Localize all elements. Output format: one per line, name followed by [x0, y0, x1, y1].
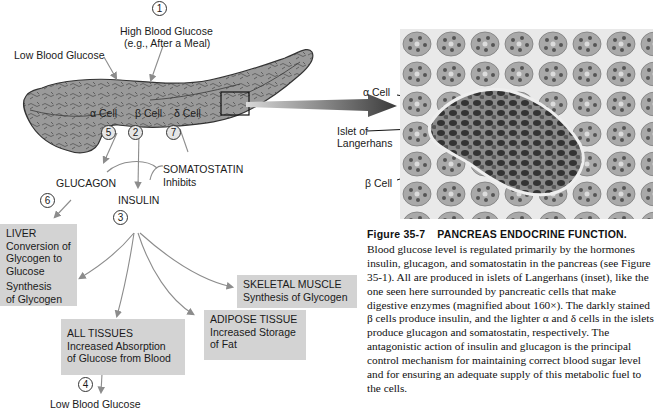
- step-6-badge: 6: [40, 193, 55, 208]
- liver-line1: Conversion of: [6, 240, 71, 253]
- adipose-line1: Increased Storage: [210, 326, 300, 339]
- inhibits-label: Inhibits: [163, 176, 196, 188]
- glucagon-label: GLUCAGON: [56, 177, 116, 189]
- high-glucose-label: High Blood Glucose: [120, 25, 213, 37]
- step-2-badge: 2: [128, 125, 143, 140]
- skeletal-muscle-line1: Synthesis of Glycogen: [243, 291, 351, 304]
- beta-cell-organ-label: β Cell: [135, 107, 162, 119]
- micrograph-alpha-cell-label: α Cell: [363, 86, 390, 98]
- liver-box: LIVER Conversion of Glycogen to Glucose …: [0, 224, 77, 306]
- insulin-label: INSULIN: [118, 194, 159, 206]
- islet-micrograph: [400, 29, 653, 219]
- alpha-cell-organ-label: α Cell: [90, 107, 117, 119]
- micrograph-beta-cell-label: β Cell: [365, 177, 392, 189]
- skeletal-muscle-box: SKELETAL MUSCLE Synthesis of Glycogen: [237, 275, 357, 308]
- figure-title: PANCREAS ENDOCRINE FUNCTION.: [437, 228, 627, 240]
- micrograph-islet-label-2: Langerhans: [337, 137, 392, 149]
- caption-body: Blood glucose level is regulated primari…: [367, 243, 654, 394]
- skeletal-muscle-title: SKELETAL MUSCLE: [243, 278, 351, 291]
- somatostatin-label: SOMATOSTATIN: [163, 163, 243, 175]
- low-glucose-bottom-label: Low Blood Glucose: [50, 398, 140, 410]
- adipose-tissue-box: ADIPOSE TISSUE Increased Storage of Fat: [204, 310, 306, 360]
- step-5-badge: 5: [101, 125, 116, 140]
- liver-title: LIVER: [6, 227, 71, 240]
- high-glucose-example: (e.g., After a Meal): [124, 37, 210, 49]
- figure-number: Figure 35-7: [367, 228, 425, 240]
- delta-cell-organ-label: δ Cell: [174, 107, 201, 119]
- all-tissues-line1: Increased Absorption: [67, 340, 179, 353]
- micrograph-islet-label-1: Islet of: [337, 125, 368, 137]
- all-tissues-line2: of Glucose from Blood: [67, 352, 179, 365]
- low-glucose-top-label: Low Blood Glucose: [14, 49, 104, 61]
- step-7-badge: 7: [166, 125, 181, 140]
- liver-line5: of Glycogen: [6, 293, 71, 306]
- liver-line3: Glucose: [6, 265, 71, 278]
- figure-caption: Figure 35-7PANCREAS ENDOCRINE FUNCTION. …: [367, 228, 656, 396]
- liver-line4: Synthesis: [6, 280, 71, 293]
- adipose-line2: of Fat: [210, 338, 300, 351]
- step-4-badge: 4: [78, 377, 93, 392]
- step-1-badge: 1: [152, 1, 167, 16]
- all-tissues-box: ALL TISSUES Increased Absorption of Gluc…: [61, 319, 185, 375]
- adipose-title: ADIPOSE TISSUE: [210, 313, 300, 326]
- caption-heading: Figure 35-7PANCREAS ENDOCRINE FUNCTION.: [367, 228, 656, 242]
- micrograph-texture: [400, 29, 653, 219]
- step-3-badge: 3: [113, 210, 128, 225]
- liver-line2: Glycogen to: [6, 252, 71, 265]
- all-tissues-title: ALL TISSUES: [67, 327, 179, 340]
